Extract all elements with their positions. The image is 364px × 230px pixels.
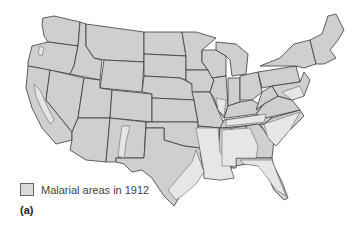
state-arizona: [70, 118, 110, 162]
figure-caption: (a): [20, 204, 33, 216]
state-new-england: [310, 14, 344, 64]
legend-swatch: [20, 183, 34, 196]
map-legend: Malarial areas in 1912: [20, 183, 149, 196]
state-wyoming: [100, 60, 144, 92]
state-indiana: [228, 78, 240, 106]
state-montana: [86, 24, 144, 62]
state-colorado: [110, 90, 152, 122]
state-north-dakota: [144, 32, 186, 56]
legend-label: Malarial areas in 1912: [41, 184, 149, 196]
state-washington: [42, 16, 80, 46]
state-kansas: [152, 98, 198, 122]
state-new-york: [260, 40, 316, 68]
